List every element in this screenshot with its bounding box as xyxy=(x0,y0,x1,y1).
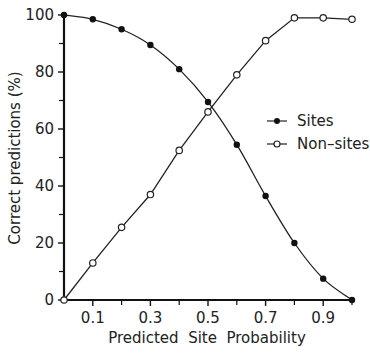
data-point-non-sites xyxy=(320,15,326,21)
y-tick-label: 80 xyxy=(35,63,54,81)
data-point-sites xyxy=(61,12,67,18)
y-tick-label: 20 xyxy=(35,234,54,252)
x-tick-label: 0.7 xyxy=(254,309,278,327)
data-point-non-sites xyxy=(349,16,355,22)
y-tick-label: 0 xyxy=(44,291,54,309)
data-point-non-sites xyxy=(61,297,67,303)
y-tick-label: 60 xyxy=(35,120,54,138)
data-point-non-sites xyxy=(118,224,124,230)
data-point-sites xyxy=(176,66,182,72)
data-point-sites xyxy=(320,275,326,281)
data-point-sites xyxy=(262,193,268,199)
y-tick-label: 40 xyxy=(35,177,54,195)
data-point-sites xyxy=(205,99,211,105)
data-point-non-sites xyxy=(90,260,96,266)
plot-lines xyxy=(64,15,352,300)
x-tick-label: 0.5 xyxy=(196,309,220,327)
legend-item-non-sites: Non–sites xyxy=(267,135,369,153)
series-line-non-sites xyxy=(64,18,352,300)
data-point-non-sites xyxy=(205,109,211,115)
filled-circle-icon xyxy=(274,118,280,124)
x-tick-label: 0.9 xyxy=(311,309,335,327)
open-circle-icon xyxy=(274,141,280,147)
data-point-sites xyxy=(349,297,355,303)
legend: Sites Non–sites xyxy=(267,112,369,153)
data-markers xyxy=(61,12,355,303)
x-tick-label: 0.3 xyxy=(138,309,162,327)
data-point-non-sites xyxy=(234,72,240,78)
data-point-non-sites xyxy=(176,147,182,153)
x-tick-label: 0.1 xyxy=(81,309,105,327)
data-point-sites xyxy=(291,240,297,246)
data-point-non-sites xyxy=(262,37,268,43)
data-point-non-sites xyxy=(147,191,153,197)
legend-label-sites: Sites xyxy=(297,112,334,130)
legend-item-sites: Sites xyxy=(267,112,334,130)
y-tick-label: 100 xyxy=(25,6,54,24)
data-point-non-sites xyxy=(291,15,297,21)
x-axis-title: Predicted Site Probability xyxy=(108,329,306,347)
series-line-sites xyxy=(64,15,352,300)
legend-label-non-sites: Non–sites xyxy=(297,135,369,153)
data-point-sites xyxy=(90,16,96,22)
data-point-sites xyxy=(118,26,124,32)
y-axis-title: Correct predictions (%) xyxy=(6,71,24,244)
chart: 0204060801000.10.30.50.70.9 Correct pred… xyxy=(0,0,370,354)
tick-labels: 0204060801000.10.30.50.70.9 xyxy=(25,6,335,327)
data-point-sites xyxy=(147,42,153,48)
data-point-sites xyxy=(234,141,240,147)
